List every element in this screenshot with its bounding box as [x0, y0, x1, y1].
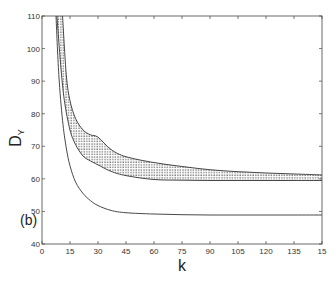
chart: 015304560759010512013515 405060708090100… — [0, 0, 336, 282]
y-tick-label: 60 — [31, 175, 40, 184]
y-tick-label: 40 — [31, 240, 40, 249]
x-tick-label: 15 — [318, 247, 327, 256]
x-tick-label: 60 — [150, 247, 159, 256]
y-tick-label: 90 — [31, 77, 40, 86]
x-tick-label: 90 — [206, 247, 215, 256]
x-tick-label: 0 — [40, 247, 45, 256]
y-axis-label-subscript: Y — [16, 129, 26, 135]
shaded-region — [57, 16, 322, 181]
y-tick-label: 110 — [27, 12, 40, 21]
y-tick-label: 80 — [31, 110, 40, 119]
shaded-band — [57, 16, 322, 181]
y-axis-label-main: D — [7, 135, 24, 147]
x-tick-label: 30 — [94, 247, 103, 256]
curve-lower-curve — [56, 16, 322, 215]
curves — [56, 16, 322, 215]
x-tick-label: 45 — [122, 247, 131, 256]
x-tick-label: 105 — [231, 247, 245, 256]
x-tick-label: 135 — [287, 247, 301, 256]
x-tick-label: 75 — [178, 247, 187, 256]
y-tick-label: 100 — [27, 45, 41, 54]
y-axis-label: DY — [7, 129, 26, 147]
panel-label: (b) — [20, 212, 37, 228]
x-tick-label: 15 — [66, 247, 75, 256]
y-tick-label: 70 — [31, 142, 40, 151]
x-axis-label: k — [178, 257, 187, 274]
x-tick-label: 120 — [259, 247, 273, 256]
svg-text:DY: DY — [7, 129, 26, 147]
plot-frame — [42, 16, 322, 244]
